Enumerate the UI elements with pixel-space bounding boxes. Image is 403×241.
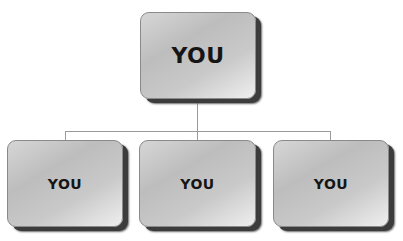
connector-horizontal <box>65 131 331 132</box>
child-node-label: YOU <box>48 176 82 192</box>
child-node-label: YOU <box>180 176 214 192</box>
root-node: YOU <box>140 12 256 99</box>
root-node-label: YOU <box>171 43 224 68</box>
connector-root-down <box>197 99 198 132</box>
child-node-middle: YOU <box>139 140 256 227</box>
child-node-left: YOU <box>7 140 123 227</box>
child-node-label: YOU <box>314 176 348 192</box>
child-node-right: YOU <box>273 140 389 227</box>
